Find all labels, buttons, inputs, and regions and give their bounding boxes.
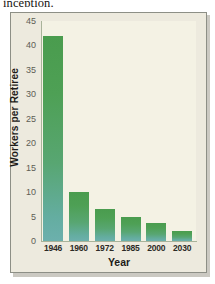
y-tick-label: 45 — [26, 17, 36, 26]
bar-slot — [69, 21, 89, 241]
bar-slot — [43, 21, 63, 241]
y-tick-label: 25 — [26, 114, 36, 123]
y-tick-label: 20 — [26, 139, 36, 148]
y-tick-label: 5 — [31, 212, 36, 221]
x-axis-line — [41, 241, 197, 242]
y-axis-line — [41, 21, 42, 242]
cut-off-body-text: inception. — [3, 0, 123, 7]
y-tick-label: 35 — [26, 65, 36, 74]
y-tick-label: 0 — [31, 237, 36, 246]
y-tick-label: 15 — [26, 163, 36, 172]
bar — [95, 209, 115, 241]
y-tick-label: 40 — [26, 41, 36, 50]
bar — [121, 217, 141, 241]
y-tick-label: 10 — [26, 188, 36, 197]
bar — [43, 36, 63, 241]
y-axis-title: Workers per Retiree — [9, 68, 23, 167]
bar-slot — [121, 21, 141, 241]
figure-inner-background: 051015202530354045 194619601972198520002… — [11, 13, 206, 272]
y-tick-label: 30 — [26, 90, 36, 99]
bar-chart-figure: 051015202530354045 194619601972198520002… — [10, 12, 207, 273]
bar-slot — [95, 21, 115, 241]
x-tick-label: 2030 — [167, 244, 197, 253]
x-axis-title: Year — [41, 256, 197, 268]
bar — [146, 223, 166, 241]
bar-slot — [146, 21, 166, 241]
bar-slot — [172, 21, 192, 241]
bar — [69, 192, 89, 241]
bar — [172, 231, 192, 241]
